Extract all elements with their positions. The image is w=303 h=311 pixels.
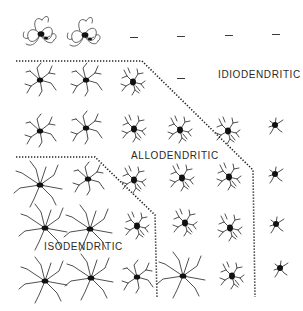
region-label-idiodendritic: IDIODENDRITIC <box>218 70 301 80</box>
neuron-r5-c3 <box>125 212 149 239</box>
neuron-r3-c2 <box>71 111 102 144</box>
neuron-r5-c5 <box>218 214 242 241</box>
empty-cell-marker-r2-c4 <box>177 78 185 79</box>
neuron-r3-c3 <box>122 115 146 142</box>
region-label-allodendritic: ALLODENDRITIC <box>131 151 219 161</box>
neuron-r4-c2 <box>73 162 104 195</box>
empty-cell-marker-r1-c3 <box>130 37 138 38</box>
neuron-r2-c3 <box>121 68 145 95</box>
neuron-r3-c5 <box>216 117 240 144</box>
neuron-r5-c4 <box>173 209 197 236</box>
neuron-r4-c4 <box>170 164 194 191</box>
neuron-r2-c1 <box>25 63 56 96</box>
neuron-r1-c1 <box>23 16 56 45</box>
neuron-r3-c6 <box>269 118 283 134</box>
neuron-r3-c1 <box>25 114 56 147</box>
neuron-r6-c5 <box>220 262 244 289</box>
neuron-r4-c6 <box>269 167 283 183</box>
neuron-r4-c1 <box>14 161 62 207</box>
empty-cell-marker-r1-c6 <box>272 34 280 35</box>
region-label-isodendritic: ISODENDRITIC <box>44 242 123 252</box>
neuron-r4-c3 <box>122 166 146 193</box>
neuron-r3-c4 <box>168 116 192 143</box>
neuron-r4-c5 <box>217 163 241 190</box>
empty-cell-marker-r1-c5 <box>225 35 233 36</box>
neuron-r1-c2 <box>67 17 100 46</box>
neuron-classification-diagram: IDIODENDRITIC ALLODENDRITIC ISODENDRITIC <box>0 0 303 311</box>
empty-cell-marker-r1-c4 <box>177 36 185 37</box>
neuron-r6-c2 <box>65 254 113 300</box>
neuron-r5-c6 <box>270 217 284 233</box>
neuron-r6-c4 <box>157 252 205 298</box>
neuron-r2-c2 <box>71 63 102 96</box>
neuron-r6-c1 <box>19 257 67 303</box>
neuron-r6-c3 <box>122 260 153 293</box>
neuron-r6-c6 <box>274 261 288 277</box>
